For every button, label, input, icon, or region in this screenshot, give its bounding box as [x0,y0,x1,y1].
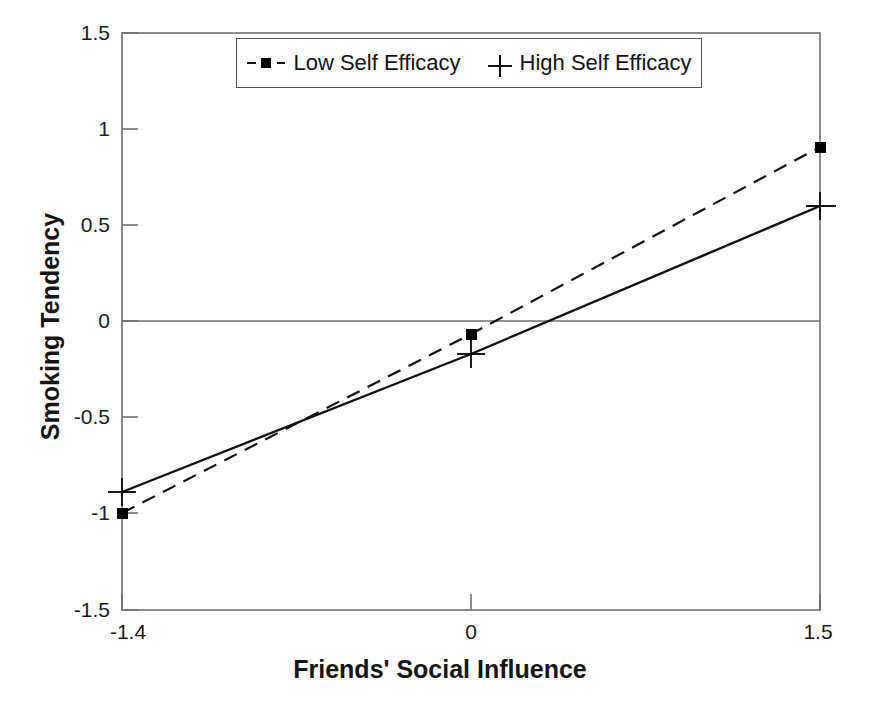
plot-canvas [0,0,880,713]
y-axis-title: Smoking Tendency [36,127,65,527]
x-axis-ticks [122,594,820,610]
x-tick-label-1: -1.4 [110,620,146,644]
plus-marker-icon [487,54,513,72]
dashed-square-marker-icon [246,54,286,72]
y-tick-label-7: -1.5 [46,598,110,622]
x-axis-title: Friends' Social Influence [0,655,880,684]
legend-label-high-self-efficacy: High Self Efficacy [520,50,692,76]
chart-legend: Low Self Efficacy High Self Efficacy [236,38,702,88]
x-tick-label-2: 0 [465,620,477,644]
legend-entry-high-self-efficacy: High Self Efficacy [487,50,692,76]
y-tick-label-1: 1.5 [46,21,110,45]
x-tick-label-3: 1.5 [803,620,832,644]
legend-label-low-self-efficacy: Low Self Efficacy [293,50,460,76]
series-low-self-efficacy-markers [117,142,826,519]
chart-figure: 1.5 1 0.5 0 -0.5 -1 -1.5 -1.4 0 1.5 Frie… [0,0,880,713]
legend-entry-low-self-efficacy: Low Self Efficacy [246,50,460,76]
series-high-self-efficacy-markers [108,192,834,506]
